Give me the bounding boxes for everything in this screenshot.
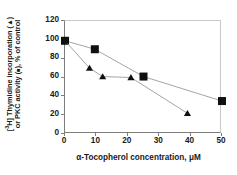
data-point-triangle <box>184 110 191 116</box>
x-axis-label-text: -Tocopherol concentration, <box>81 153 189 162</box>
y-axis-label-text-2b: ), % of control <box>13 20 22 69</box>
x-tick-label: 50 <box>209 136 233 145</box>
x-tick-label: 10 <box>83 136 107 145</box>
x-tick-label: 40 <box>178 136 202 145</box>
y-axis-label-text-2a: or PKC activity ( <box>13 72 22 128</box>
y-axis-label: [3H] Thymidine incorporation (▲) or PKC … <box>0 0 28 150</box>
chart-figure: [3H] Thymidine incorporation (▲) or PKC … <box>0 0 237 175</box>
data-point-square <box>91 45 99 53</box>
x-tick-label: 20 <box>115 136 139 145</box>
plot-area <box>64 20 221 133</box>
data-point-square <box>140 73 148 81</box>
series-line-triangle <box>65 41 187 114</box>
y-tick-label: 100 <box>45 34 59 43</box>
x-tick-label: 0 <box>52 136 76 145</box>
x-axis-label-unit: M <box>194 153 201 162</box>
data-series-canvas <box>65 21 222 134</box>
y-axis-label-superscript: 3 <box>3 126 9 129</box>
y-tick-label: 120 <box>45 15 59 24</box>
x-axis-label: α-Tocopherol concentration, μM <box>40 153 237 162</box>
series-line-square <box>65 41 222 101</box>
y-tick-label: 20 <box>50 109 59 118</box>
y-tick-label: 60 <box>50 71 59 80</box>
data-point-square <box>218 97 226 105</box>
square-marker-icon: ■ <box>15 68 21 72</box>
y-tick-label: 40 <box>50 90 59 99</box>
triangle-marker-icon: ▲ <box>6 19 13 26</box>
y-axis-label-line-2: or PKC activity (■), % of control <box>14 20 22 128</box>
x-tick-label: 30 <box>146 136 170 145</box>
y-tick-label: 80 <box>50 52 59 61</box>
y-axis-label-bracket-open: [ <box>5 129 14 131</box>
